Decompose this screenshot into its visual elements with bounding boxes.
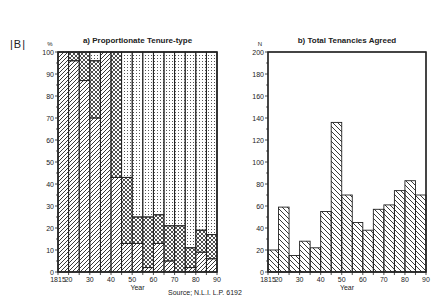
- x-tick-label: 70: [171, 276, 179, 283]
- bar-segment-crosshatch: [90, 61, 101, 118]
- x-axis-label: Year: [340, 284, 355, 291]
- bar: [331, 122, 342, 272]
- bar-segment-diagonal: [143, 268, 154, 272]
- bar-segment-diagonal: [100, 52, 111, 272]
- bar-segment-crosshatch: [122, 177, 133, 243]
- bar-segment-diagonal: [164, 261, 175, 272]
- x-tick-label: 40: [317, 276, 325, 283]
- chart-proportionate-tenure-type: 0102030405060708090100%18152030405060708…: [42, 36, 221, 291]
- x-tick-label: 50: [338, 276, 346, 283]
- y-tick-label: 140: [252, 115, 264, 122]
- bar: [384, 205, 395, 272]
- y-tick-label: 70: [46, 115, 54, 122]
- bar-segment-crosshatch: [69, 52, 80, 61]
- bar-segment-crosshatch: [196, 230, 207, 252]
- x-tick-label: 80: [401, 276, 409, 283]
- y-tick-label: 120: [252, 137, 264, 144]
- bar: [352, 223, 363, 273]
- figure: 0102030405060708090100%18152030405060708…: [0, 0, 448, 308]
- bar-segment-diagonal: [132, 243, 143, 272]
- bar-segment-crosshatch: [185, 248, 196, 268]
- bar-segment-crosshatch: [143, 217, 154, 268]
- y-tick-label: 20: [256, 247, 264, 254]
- y-tick-label: 40: [46, 181, 54, 188]
- x-tick-label: 60: [359, 276, 367, 283]
- y-axis-label: %: [47, 41, 53, 47]
- bar-segment-dots: [143, 52, 154, 217]
- bar-segment-diagonal: [79, 81, 90, 272]
- bar-segment-crosshatch: [206, 235, 217, 259]
- bar: [342, 195, 353, 272]
- bar-segment-crosshatch: [79, 52, 90, 81]
- bar-segment-dots: [206, 52, 217, 235]
- bar: [279, 207, 290, 272]
- bar: [405, 181, 416, 272]
- source-note: Source; N.L.I. L.P. 6192: [168, 289, 242, 296]
- x-tick-label: 70: [380, 276, 388, 283]
- bar: [394, 191, 405, 272]
- y-tick-label: 200: [252, 49, 264, 56]
- y-tick-label: 100: [42, 49, 54, 56]
- y-tick-label: 20: [46, 225, 54, 232]
- bar-segment-dots: [196, 52, 207, 230]
- chart-total-tenancies-agreed: 020406080100120140160180200N181520304050…: [252, 36, 430, 291]
- bar: [321, 212, 332, 273]
- x-tick-label: 20: [275, 276, 283, 283]
- x-tick-label: 50: [128, 276, 136, 283]
- x-tick-label: 30: [86, 276, 94, 283]
- bar-segment-diagonal: [90, 118, 101, 272]
- x-axis-label: Year: [130, 284, 145, 291]
- x-tick-label: 20: [65, 276, 73, 283]
- y-tick-label: 60: [46, 137, 54, 144]
- bar-segment-diagonal: [196, 252, 207, 272]
- y-tick-label: 80: [46, 93, 54, 100]
- bar-segment-dots: [175, 52, 186, 226]
- bar-segment-dots: [132, 52, 143, 217]
- bar-segment-crosshatch: [132, 217, 143, 243]
- bar: [363, 230, 374, 272]
- y-tick-label: 40: [256, 225, 264, 232]
- bar-segment-dots: [122, 52, 133, 177]
- y-tick-label: 50: [46, 159, 54, 166]
- y-tick-label: 60: [256, 203, 264, 210]
- x-tick-label: 40: [107, 276, 115, 283]
- bar-segment-diagonal: [111, 177, 122, 272]
- bar-segment-diagonal: [153, 243, 164, 272]
- y-tick-label: 0: [50, 269, 54, 276]
- x-tick-label: 30: [296, 276, 304, 283]
- chart-title: a) Proportionate Tenure-type: [83, 36, 193, 45]
- y-tick-label: 180: [252, 71, 264, 78]
- x-tick-label: 1815: [260, 276, 276, 283]
- bar-segment-diagonal: [185, 268, 196, 272]
- bar-segment-crosshatch: [175, 226, 186, 272]
- bar-segment-diagonal: [58, 52, 69, 272]
- bar-segment-crosshatch: [164, 226, 175, 261]
- y-axis-label: N: [258, 41, 262, 47]
- y-tick-label: 160: [252, 93, 264, 100]
- y-tick-label: 10: [46, 247, 54, 254]
- bar-segment-dots: [153, 52, 164, 215]
- bar: [289, 256, 300, 273]
- y-tick-label: 0: [260, 269, 264, 276]
- x-tick-label: 1815: [50, 276, 66, 283]
- bar: [268, 250, 279, 272]
- bar-segment-crosshatch: [153, 215, 164, 244]
- bar-segment-diagonal: [206, 259, 217, 272]
- bar: [415, 195, 426, 272]
- bar: [300, 241, 311, 272]
- chart-title: b) Total Tenancies Agreed: [298, 36, 397, 45]
- y-tick-label: 90: [46, 71, 54, 78]
- bar-segment-dots: [90, 52, 101, 61]
- y-tick-label: 30: [46, 203, 54, 210]
- bar-segment-dots: [164, 52, 175, 226]
- x-tick-label: 90: [213, 276, 221, 283]
- bar-segment-diagonal: [122, 243, 133, 272]
- x-tick-label: 60: [150, 276, 158, 283]
- bar-segment-diagonal: [69, 61, 80, 272]
- x-tick-label: 90: [422, 276, 430, 283]
- y-tick-label: 80: [256, 181, 264, 188]
- bar-segment-dots: [185, 52, 196, 248]
- bar-segment-crosshatch: [111, 52, 122, 177]
- bar: [310, 248, 321, 272]
- bar: [373, 209, 384, 272]
